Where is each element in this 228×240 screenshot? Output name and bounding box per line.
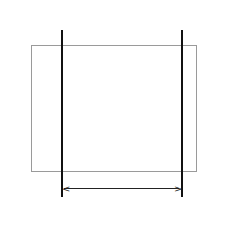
repeat-end-line <box>181 30 183 197</box>
arrow-left-icon: < <box>62 184 70 193</box>
repeat-arrow-line <box>64 188 179 189</box>
arrow-right-icon: > <box>174 184 182 193</box>
knitting-chart-grid <box>31 45 197 172</box>
repeat-start-line <box>61 30 63 197</box>
